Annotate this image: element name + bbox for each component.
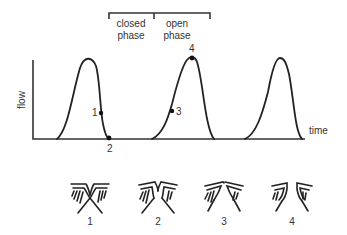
vocal-fold-label-1: 1 <box>87 216 93 227</box>
flow-waveform <box>57 57 302 139</box>
vocal-fold-diagram-4 <box>272 183 312 211</box>
vocal-fold-diagram-1 <box>71 184 109 213</box>
vocal-fold-diagram-2 <box>139 182 177 213</box>
open-phase-label-line1: open <box>166 18 188 29</box>
vocal-fold-label-3: 3 <box>221 216 227 227</box>
vocal-fold-label-4: 4 <box>289 216 295 227</box>
axes <box>33 60 305 139</box>
waveform-points <box>99 56 195 141</box>
y-axis-label: flow <box>16 90 27 109</box>
x-axis-label: time <box>309 125 328 136</box>
point-1-marker <box>99 111 103 115</box>
vocal-fold-diagram-3 <box>205 182 243 211</box>
point-3-marker <box>170 109 174 113</box>
closed-phase-label-line2: phase <box>117 30 145 41</box>
vocal-fold-label-2: 2 <box>155 216 161 227</box>
point-2-marker <box>107 136 112 141</box>
point-1-label: 1 <box>92 107 98 118</box>
glottal-flow-diagram: closed phase open phase flow time 1 2 3 … <box>0 0 347 235</box>
point-3-label: 3 <box>176 106 182 117</box>
point-4-label: 4 <box>189 43 195 54</box>
open-phase-label-line2: phase <box>163 30 191 41</box>
closed-phase-label-line1: closed <box>117 18 146 29</box>
point-2-label: 2 <box>107 143 113 154</box>
point-4-marker <box>190 56 195 61</box>
